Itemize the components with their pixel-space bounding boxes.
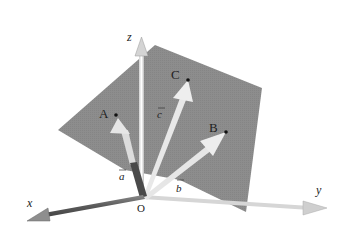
origin-label: O [137,202,145,214]
point-b-dot [224,130,228,134]
vector-c-label: c [157,108,162,120]
y-axis-label: y [315,183,322,197]
z-axis-label: z [126,30,132,44]
vector-b-label: b [176,182,182,194]
point-a-dot [114,113,118,117]
point-c-dot [186,78,190,82]
point-a-label: A [99,106,109,121]
point-c-label: C [171,67,180,82]
x-axis [27,195,145,221]
vector-diagram: A B C z x y O a b c [0,0,356,233]
vector-a-label-group: a [119,170,126,182]
point-b-label: B [209,120,218,135]
x-axis-label: x [26,196,33,210]
vector-b-label-group: b [176,180,184,194]
vector-a-label: a [119,170,125,182]
